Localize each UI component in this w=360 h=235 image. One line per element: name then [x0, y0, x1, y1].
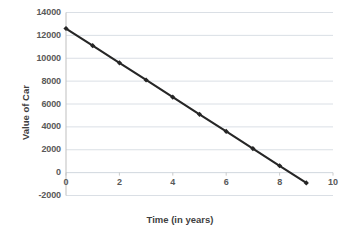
y-tick-label: 14000	[19, 7, 61, 17]
chart-container: -200002000400060008000100001200014000 02…	[0, 0, 360, 235]
x-tick-label: 2	[107, 177, 131, 187]
x-tick-label: 4	[161, 177, 185, 187]
y-tick-label: 2000	[19, 144, 61, 154]
gridlines-group	[66, 13, 333, 196]
y-axis-title: Value of Car	[20, 85, 31, 140]
x-tick-label: 8	[268, 177, 292, 187]
y-tick-label: 12000	[19, 30, 61, 40]
x-tick-label: 10	[321, 177, 345, 187]
data-series-line	[66, 29, 306, 183]
x-axis-title: Time (in years)	[0, 214, 360, 225]
x-tick-label: 6	[214, 177, 238, 187]
y-tick-label: -2000	[19, 190, 61, 200]
y-tick-label: 0	[19, 167, 61, 177]
y-tick-label: 10000	[19, 53, 61, 63]
x-tick-label: 0	[54, 177, 78, 187]
